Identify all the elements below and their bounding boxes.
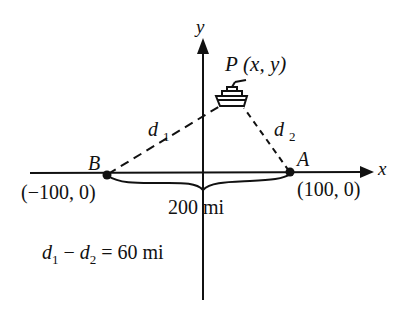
point-a-label: A (295, 148, 310, 170)
x-axis-label: x (377, 158, 387, 179)
ship-icon (216, 80, 247, 106)
point-p-name: P (224, 52, 238, 76)
point-b-label: B (88, 152, 100, 174)
d1-subscript: 1 (163, 129, 170, 144)
y-axis-label: y (194, 16, 205, 37)
d2-label: d 2 (274, 118, 296, 144)
d1-base: d (148, 118, 159, 140)
eq-minus: − (59, 241, 80, 263)
d2-base: d (274, 118, 285, 140)
d2-subscript: 2 (289, 129, 296, 144)
point-a-coords: (100, 0) (297, 178, 360, 201)
y-axis-arrow-icon (197, 38, 209, 54)
equation: d1 − d2 = 60 mi (42, 241, 164, 267)
point-a-dot (286, 168, 295, 177)
point-p-label: P (x, y) (224, 52, 286, 76)
point-b-coords: (−100, 0) (21, 181, 96, 204)
hyperbola-ship-diagram: x y P (x, y) d 1 d 2 B (−100, 0) A (100,… (0, 0, 406, 317)
x-axis-arrow-icon (360, 166, 374, 178)
span-brace (108, 174, 290, 190)
d1-label: d 1 (148, 118, 170, 144)
y-axis (197, 38, 209, 300)
point-b-dot (103, 171, 112, 180)
eq-rhs: = 60 mi (96, 241, 164, 263)
point-p-coords: (x, y) (243, 52, 286, 76)
span-label: 200 mi (168, 196, 225, 218)
